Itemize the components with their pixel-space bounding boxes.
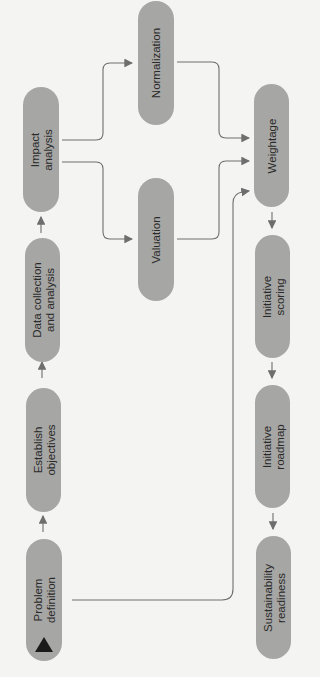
edge-valuation-weightage	[177, 161, 249, 239]
node-sustainability-readiness[interactable]: Sustainabilityreadiness	[256, 536, 291, 659]
node-label: Sustainability	[261, 564, 274, 632]
node-data-collection[interactable]: Data collectionand analysis	[25, 238, 60, 362]
node-normalization[interactable]: Normalization	[138, 1, 174, 125]
node-initiative-roadmap[interactable]: Initiativeroadmap	[255, 385, 290, 508]
node-label: Problem	[32, 577, 45, 623]
start-marker-icon	[35, 637, 53, 652]
node-label: Initiative	[260, 424, 273, 469]
node-valuation[interactable]: Valuation	[138, 178, 174, 301]
node-label: Initiative	[260, 275, 273, 317]
node-label: Normalization	[150, 28, 163, 98]
node-initiative-scoring[interactable]: Initiativescoring	[255, 235, 290, 358]
node-label: Data collection	[30, 262, 43, 337]
node-label: Impact	[29, 129, 42, 171]
node-label: Valuation	[150, 216, 163, 263]
node-label: objectives	[44, 424, 57, 475]
node-label: Establish	[31, 424, 44, 475]
node-impact-analysis[interactable]: Impactanalysis	[23, 87, 59, 212]
node-label: definition	[44, 577, 57, 623]
node-label: readiness	[274, 564, 287, 632]
edge-impact-normalization	[62, 63, 132, 140]
node-establish-objectives[interactable]: Establishobjectives	[26, 388, 61, 512]
node-weightage[interactable]: Weightage	[254, 84, 289, 207]
node-label: roadmap	[273, 424, 286, 469]
edge-impact-valuation	[62, 162, 132, 239]
node-label: Weightage	[265, 118, 278, 173]
node-label: and analysis	[43, 262, 56, 337]
node-label: scoring	[273, 275, 286, 317]
node-label: analysis	[41, 129, 54, 171]
edge-normalization-weightage	[177, 62, 249, 138]
